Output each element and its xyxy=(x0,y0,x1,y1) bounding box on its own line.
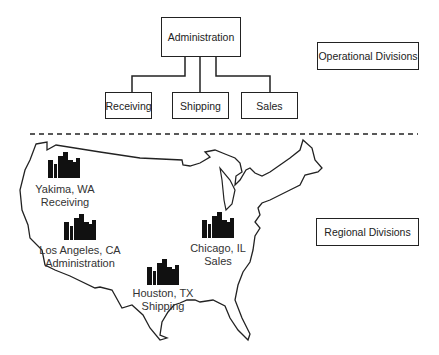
shipping-box: Shipping xyxy=(172,92,229,119)
city-icon xyxy=(48,150,80,178)
operational-divisions-legend: Operational Divisions xyxy=(317,42,419,70)
city-icon xyxy=(64,212,96,240)
lake-michigan xyxy=(220,168,235,210)
receiving-label: Receiving xyxy=(105,100,151,112)
location-label: Los Angeles, CAAdministration xyxy=(30,244,130,270)
location-label: Houston, TXShipping xyxy=(123,287,203,313)
location-label: Yakima, WAReceiving xyxy=(25,183,105,209)
administration-box: Administration xyxy=(161,17,241,57)
regional-divisions-legend: Regional Divisions xyxy=(316,218,419,246)
sales-box: Sales xyxy=(241,92,298,119)
org-connectors xyxy=(132,56,270,92)
city-icon xyxy=(202,210,234,238)
sales-label: Sales xyxy=(256,100,282,112)
shipping-label: Shipping xyxy=(180,100,221,112)
city-icon xyxy=(147,257,179,285)
receiving-box: Receiving xyxy=(105,92,152,119)
administration-label: Administration xyxy=(168,31,235,43)
location-label: Chicago, ILSales xyxy=(178,242,258,268)
